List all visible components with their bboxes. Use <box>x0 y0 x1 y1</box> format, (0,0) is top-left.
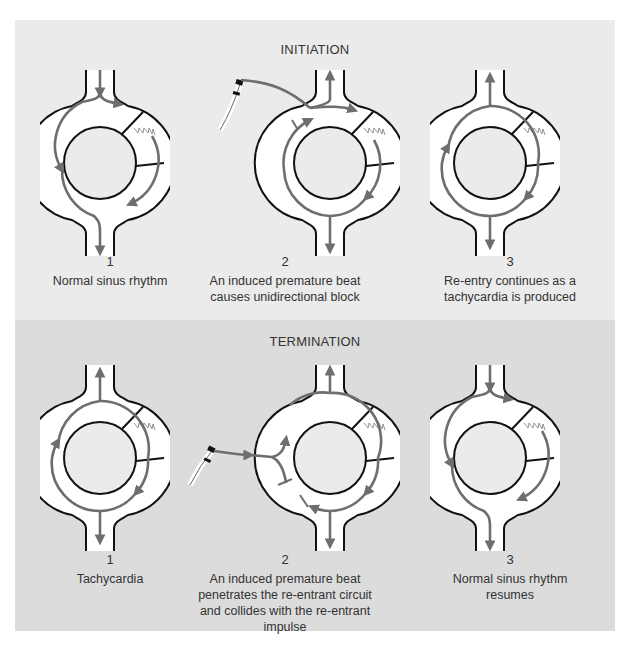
section-title-initiation: INITIATION <box>15 42 615 57</box>
step-caption: Normal sinus rhythm <box>53 274 168 288</box>
termination-panel: TERMINATION <box>15 320 615 631</box>
caption-termination-2: 2 An induced premature beat penetrates t… <box>195 552 375 635</box>
step-number: 3 <box>435 254 585 270</box>
step-caption: Tachycardia <box>77 572 144 586</box>
diagram-termination-1 <box>40 365 170 555</box>
diagram-initiation-1 <box>40 70 170 260</box>
step-number: 1 <box>10 552 210 568</box>
step-number: 1 <box>10 254 210 270</box>
diagram-initiation-2 <box>200 70 400 260</box>
step-number: 2 <box>205 254 365 270</box>
caption-initiation-1: 1 Normal sinus rhythm <box>10 254 210 289</box>
caption-initiation-2: 2 An induced premature beat causes unidi… <box>205 254 365 305</box>
caption-termination-3: 3 Normal sinus rhythm resumes <box>445 552 575 603</box>
caption-initiation-3: 3 Re-entry continues as a tachycardia is… <box>435 254 585 305</box>
step-caption: Re-entry continues as a tachycardia is p… <box>444 274 576 304</box>
diagram-termination-3 <box>430 365 560 555</box>
step-number: 2 <box>195 552 375 568</box>
initiation-panel: INITIATION <box>15 20 615 320</box>
caption-termination-1: 1 Tachycardia <box>10 552 210 587</box>
section-title-termination: TERMINATION <box>15 334 615 349</box>
diagram-initiation-3 <box>430 70 560 260</box>
step-caption: An induced premature beat penetrates the… <box>198 572 372 634</box>
diagram-termination-2 <box>185 365 400 555</box>
step-caption: Normal sinus rhythm resumes <box>453 572 568 602</box>
step-number: 3 <box>445 552 575 568</box>
step-caption: An induced premature beat causes unidire… <box>210 274 361 304</box>
